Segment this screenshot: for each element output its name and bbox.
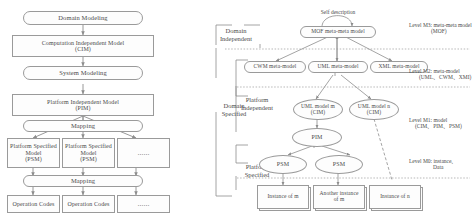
level-m0-line1: Level M0: instance、 <box>409 158 457 164</box>
node-uml-meta-model: UML meta-model <box>308 61 368 73</box>
level-m3-line1: Level M3: meta-meta model <box>409 22 472 28</box>
node-uml-model-m: UML model m(CIM) <box>293 99 343 120</box>
node-uml-model-n-label: UML model n(CIM) <box>358 104 390 116</box>
node-pim-ellipse: PIM <box>292 128 342 147</box>
bracket-domain-independent: DomainIndependent <box>214 27 258 43</box>
level-m3-annotation: Level M3: meta-meta model (MOF) <box>409 22 472 35</box>
node-psm-left: PSM <box>259 155 307 174</box>
node-psm-right: PSM <box>315 155 363 174</box>
figure-canvas: Domain Modeling Computation Independent … <box>0 0 475 221</box>
node-cwm-meta-model: CWM meta-model <box>244 61 306 73</box>
self-description-label: Self description <box>312 9 364 15</box>
node-instance-of-n: Instance of n <box>369 185 421 209</box>
bracket-platform-independent: PlatformIndependent <box>238 96 276 112</box>
level-m0-annotation: Level M0: instance、 Data <box>409 158 457 171</box>
node-another-instance-of-m: Another instanceof m <box>313 185 365 209</box>
level-m1-line1: Level M1: model <box>409 117 447 123</box>
level-m1-annotation: Level M1: model (CIM、PIM、PSM) <box>409 117 462 130</box>
node-instance-of-m: Instance of m <box>257 185 309 209</box>
level-m1-line2: (CIM、PIM、PSM) <box>415 123 462 129</box>
node-another-instance-of-m-label: Another instanceof m <box>319 191 358 203</box>
level-m2-line2: (UML、CWM、XMI) <box>419 74 471 80</box>
node-uml-model-m-label: UML model m(CIM) <box>301 104 335 116</box>
level-m3-line2: (MOF) <box>431 28 447 34</box>
node-uml-model-n: UML model n(CIM) <box>349 99 399 120</box>
level-m0-line2: Data <box>433 164 443 170</box>
level-m2-line1: Level M2: meta-model <box>409 68 460 74</box>
node-mof-meta-meta-model: MOF meta-meta model <box>300 26 376 38</box>
level-m2-annotation: Level M2: meta-model (UML、CWM、XMI) <box>409 68 471 81</box>
